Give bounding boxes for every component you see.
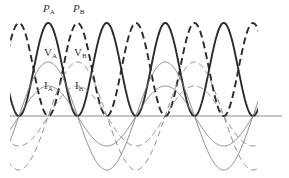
label-IA: IA [44, 80, 53, 95]
label-VB-letter: V [74, 46, 82, 58]
waveform-curves [0, 23, 263, 170]
label-PA: PA [43, 3, 55, 18]
label-PB-subscript: B [80, 8, 85, 16]
label-VA-subscript: A [52, 52, 57, 60]
label-PB-letter: P [73, 2, 80, 14]
label-VA-letter: V [44, 46, 52, 58]
label-PB: PB [73, 3, 84, 18]
curve-pb [0, 23, 263, 116]
label-IB-subscript: B [79, 85, 84, 93]
label-VA: VA [44, 47, 57, 62]
curve-pa [0, 23, 263, 116]
label-VB-subscript: B [82, 52, 87, 60]
label-IB: IB [75, 80, 83, 95]
label-VB: VB [74, 47, 87, 62]
label-PA-subscript: A [50, 8, 55, 16]
label-PA-letter: P [43, 2, 50, 14]
label-IA-subscript: A [48, 85, 53, 93]
